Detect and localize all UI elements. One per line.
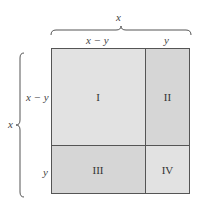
- top-brace-label: x: [116, 11, 121, 23]
- vertical-divider: [145, 48, 146, 194]
- horizontal-divider: [51, 145, 190, 146]
- left-brace-label: x: [8, 118, 13, 130]
- top-label-y: y: [164, 34, 169, 46]
- top-label-x-minus-y: x − y: [86, 34, 109, 46]
- side-label-x-minus-y: x − y: [26, 91, 49, 103]
- left-brace-icon: [15, 52, 25, 198]
- square-outline: [51, 48, 190, 194]
- side-label-y: y: [43, 166, 48, 178]
- top-brace-icon: [50, 26, 192, 36]
